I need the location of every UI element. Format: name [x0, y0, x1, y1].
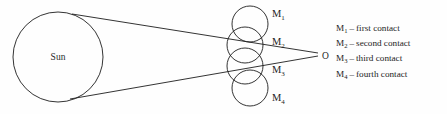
moon-label-m1: M1 — [272, 8, 285, 22]
eclipse-contacts-diagram: Sun M1 M2 M3 M4 O M1–first contact M2–se… — [0, 0, 447, 114]
legend-dash-m1: – — [347, 23, 356, 33]
legend: M1–first contact M2–second contact M3–th… — [336, 21, 447, 82]
legend-dash-m2: – — [347, 38, 356, 48]
sun-label: Sun — [51, 52, 66, 62]
legend-symbol-m2: M2 — [336, 38, 347, 48]
legend-item-m3: M3–third contact — [336, 51, 447, 66]
moon-label-m3: M3 — [272, 64, 285, 78]
legend-item-m4: M4–fourth contact — [336, 67, 447, 82]
legend-dash-m4: – — [347, 69, 356, 79]
moon-circle-m1 — [232, 6, 268, 42]
moon-label-m2: M2 — [272, 36, 285, 50]
legend-item-m2: M2–second contact — [336, 36, 447, 51]
legend-symbol-m4: M4 — [336, 69, 347, 79]
legend-symbol-m3: M3 — [336, 53, 347, 63]
moon-label-m4: M4 — [272, 92, 285, 106]
legend-text-m3: third contact — [356, 53, 402, 63]
legend-item-m1: M1–first contact — [336, 21, 447, 36]
legend-text-m1: first contact — [356, 23, 400, 33]
moon-circle-m4 — [232, 70, 268, 106]
moon-circle-m3 — [227, 48, 263, 84]
legend-dash-m3: – — [347, 53, 356, 63]
legend-text-m4: fourth contact — [356, 69, 407, 79]
moon-circle-m2 — [227, 27, 263, 63]
legend-text-m2: second contact — [356, 38, 410, 48]
legend-symbol-m1: M1 — [336, 23, 347, 33]
observer-label: O — [322, 51, 329, 61]
